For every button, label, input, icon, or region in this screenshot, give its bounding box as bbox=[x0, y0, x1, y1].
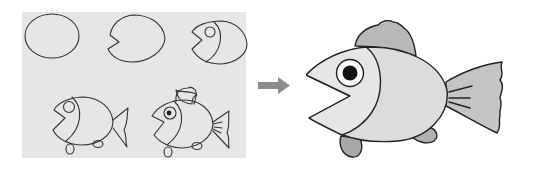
arrow-icon bbox=[258, 77, 290, 94]
steps-panel bbox=[22, 12, 247, 158]
final-fish bbox=[306, 21, 502, 158]
step-5-pupil bbox=[167, 111, 172, 116]
fish-pupil bbox=[343, 66, 358, 81]
fish-drawing-tutorial bbox=[0, 0, 536, 174]
panel-background bbox=[22, 12, 246, 158]
